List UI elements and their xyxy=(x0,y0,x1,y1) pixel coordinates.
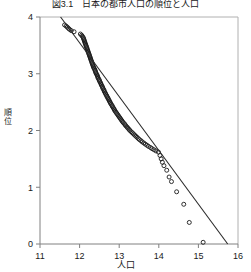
data-point xyxy=(187,220,191,224)
plot-frame xyxy=(40,17,238,244)
data-point xyxy=(167,175,171,179)
y-axis-tick-label: 2 xyxy=(28,126,33,136)
data-point xyxy=(169,180,173,184)
y-axis-tick-label: 0 xyxy=(28,239,33,249)
y-axis-tick-label: 3 xyxy=(28,69,33,79)
data-point xyxy=(182,202,186,206)
figure: 図3.1 日本の都市人口の順位と人口 11121314151601234 順 位… xyxy=(0,0,251,272)
x-axis-label: 人口 xyxy=(0,258,251,271)
data-point xyxy=(175,190,179,194)
scatter-plot: 11121314151601234 xyxy=(0,0,251,272)
y-axis-tick-label: 4 xyxy=(28,12,33,22)
data-point xyxy=(165,168,169,172)
data-point-group xyxy=(63,23,206,244)
regression-line xyxy=(61,17,228,244)
y-axis-tick-label: 1 xyxy=(28,183,33,193)
y-axis-label: 順 位 xyxy=(2,108,14,126)
data-point xyxy=(162,164,166,168)
y-axis-label-char-2: 位 xyxy=(2,117,14,126)
y-axis-label-char-1: 順 xyxy=(2,108,14,117)
